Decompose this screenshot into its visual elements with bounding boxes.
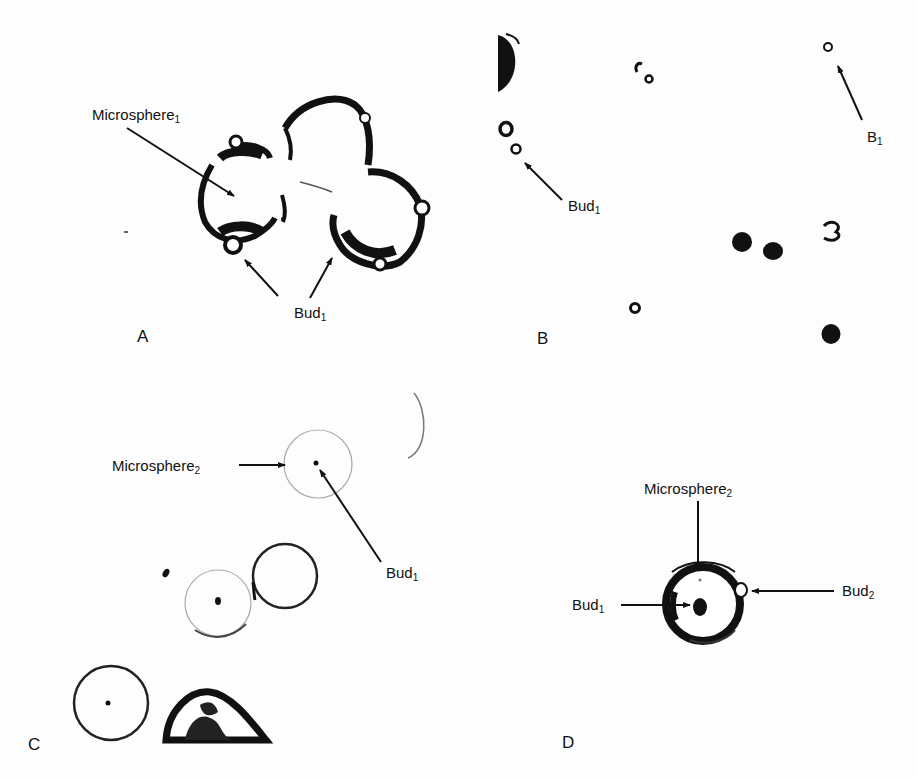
panel-letter-d: D [562,733,574,753]
label-microsphere-2-d: Microsphere2 [644,481,732,499]
panel-d-image [666,562,747,643]
panel-c-image [74,393,424,740]
panel-b-arrows [525,66,862,200]
label-bud-1-d: Bud1 [572,597,604,615]
panel-letter-a: A [137,327,148,347]
label-bud-1-a: Bud1 [294,305,326,323]
label-microsphere-1-a: Microsphere1 [92,107,180,125]
label-bud-1-b: Bud1 [568,198,600,216]
panel-b-image [498,34,841,344]
label-bud-1-c: Bud1 [386,565,418,583]
label-b-1: B1 [867,129,883,147]
panel-letter-c: C [28,735,40,755]
label-bud-2-d: Bud2 [842,583,874,601]
panel-letter-b: B [537,329,548,349]
label-microsphere-2-c: Microsphere2 [112,458,200,476]
panel-c-arrows [239,465,381,562]
